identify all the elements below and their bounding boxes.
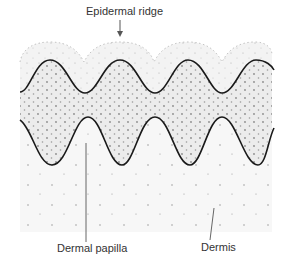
dermal-papilla-label: Dermal papilla: [57, 243, 127, 254]
arrow-down-icon: [117, 20, 123, 37]
skin-cross-section-diagram: [0, 0, 289, 271]
dermis-label: Dermis: [201, 242, 236, 253]
epidermal-ridge-label: Epidermal ridge: [86, 6, 163, 17]
